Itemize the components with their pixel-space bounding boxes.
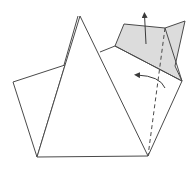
diagram-svg [0,0,194,172]
fold-arrow-icon [137,75,165,88]
origami-diagram [0,0,194,172]
